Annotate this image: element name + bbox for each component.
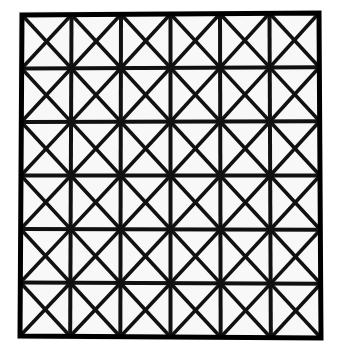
grid-line-horizontal-5 [20, 283, 320, 284]
grid-line-horizontal-1 [22, 67, 320, 68]
triangulated-grid-figure: Triangulated square grid A square lattic… [0, 0, 339, 358]
grid-line-horizontal-4 [21, 229, 321, 230]
figure-container: Triangulated square grid A square lattic… [0, 0, 339, 358]
grid-line-horizontal-2 [21, 121, 319, 122]
